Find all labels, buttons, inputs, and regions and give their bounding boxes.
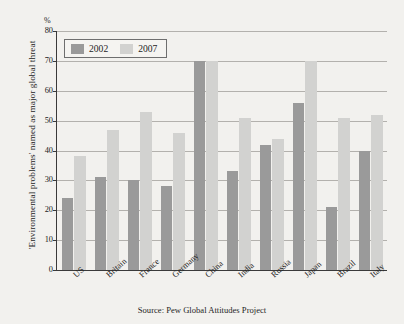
bar-group [222, 31, 255, 270]
legend-label-2007: 2007 [138, 43, 157, 54]
bars-layer [57, 31, 387, 270]
y-tick-label: 0 [31, 265, 53, 274]
y-tick-mark [53, 121, 56, 122]
y-tick-mark [53, 31, 56, 32]
bar-group [354, 31, 387, 270]
y-tick-mark [53, 210, 56, 211]
bar-japan-2002 [293, 103, 305, 270]
bar-brazil-2007 [338, 118, 350, 270]
bar-russia-2002 [260, 145, 272, 270]
bar-germany-2007 [173, 133, 185, 270]
bar-us-2002 [62, 198, 74, 270]
y-tick-label: 60 [31, 86, 53, 95]
bar-group [189, 31, 222, 270]
y-tick-label: 50 [31, 116, 53, 125]
bar-russia-2007 [272, 139, 284, 270]
y-tick-mark [53, 91, 56, 92]
legend-entry-2002: 2002 [71, 43, 108, 54]
bar-britain-2007 [107, 130, 119, 270]
y-tick-label: 30 [31, 175, 53, 184]
bar-china-2007 [206, 61, 218, 270]
x-axis-tick-labels: USBritainFranceGermanyChinaIndiaRussiaJa… [57, 272, 387, 306]
bar-group [288, 31, 321, 270]
legend-label-2002: 2002 [89, 43, 108, 54]
y-axis-unit-label: % [44, 16, 51, 25]
y-tick-label: 10 [31, 235, 53, 244]
y-tick-mark [53, 240, 56, 241]
bar-india-2007 [239, 118, 251, 270]
y-tick-label: 70 [31, 56, 53, 65]
legend-swatch-2007 [120, 44, 133, 54]
y-tick-mark [53, 61, 56, 62]
bar-group [123, 31, 156, 270]
bar-italy-2002 [359, 151, 371, 271]
y-tick-mark [53, 151, 56, 152]
legend-swatch-2002 [71, 44, 84, 54]
y-tick-mark [53, 270, 56, 271]
bar-us-2007 [74, 156, 86, 270]
bar-china-2002 [194, 61, 206, 270]
y-tick-label: 40 [31, 146, 53, 155]
y-tick-label: 80 [31, 26, 53, 35]
bar-group [255, 31, 288, 270]
bar-group [156, 31, 189, 270]
bar-france-2007 [140, 112, 152, 270]
bar-germany-2002 [161, 186, 173, 270]
bar-group [57, 31, 90, 270]
plot-area [57, 31, 387, 270]
y-tick-label: 20 [31, 205, 53, 214]
chart-figure: % 'Environmental problems' named as majo… [0, 0, 404, 324]
bar-britain-2002 [95, 177, 107, 270]
bar-brazil-2002 [326, 207, 338, 270]
legend-entry-2007: 2007 [120, 43, 157, 54]
bar-group [321, 31, 354, 270]
chart-legend: 2002 2007 [64, 39, 167, 58]
bar-group [90, 31, 123, 270]
bar-japan-2007 [305, 61, 317, 270]
bar-italy-2007 [371, 115, 383, 270]
bar-france-2002 [128, 180, 140, 270]
y-tick-mark [53, 180, 56, 181]
bar-india-2002 [227, 171, 239, 270]
source-note: Source: Pew Global Attitudes Project [0, 305, 404, 315]
